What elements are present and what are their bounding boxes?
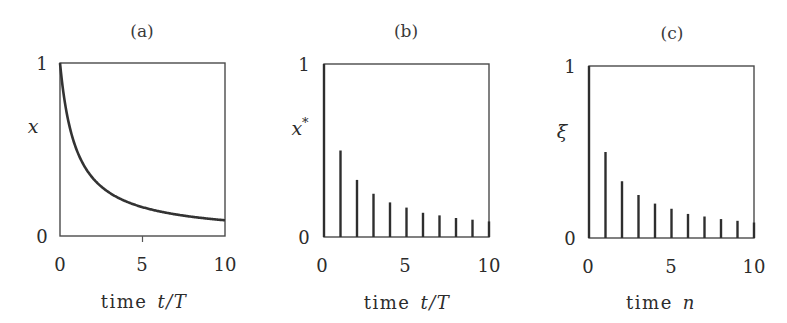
panel-a-ytick-1: 1	[36, 53, 47, 74]
panel-b-xtick-label-0: 0	[316, 255, 327, 276]
panel-a-xtick-label-0: 0	[54, 254, 65, 275]
panel-a-decay-curve	[60, 63, 225, 220]
panel-b-ytick-0: 0	[298, 227, 309, 248]
panel-c-title: (c)	[661, 23, 684, 43]
panel-c: (c) 1 0 ξ 0 5 10 timen	[557, 23, 766, 313]
panel-a-title: (a)	[130, 21, 153, 41]
panel-c-stems	[589, 66, 754, 238]
panel-a-xtick-label-10: 10	[214, 254, 237, 275]
panel-b-xtick-label-10: 10	[478, 255, 501, 276]
panel-a-xtick-label-5: 5	[136, 254, 147, 275]
panel-c-ytick-0: 0	[564, 228, 575, 249]
panel-b-ytick-1: 1	[298, 54, 309, 75]
panel-c-ytick-1: 1	[564, 56, 575, 77]
panel-b-xlabel: timet/T	[364, 292, 451, 313]
panel-c-xlabel: timen	[626, 292, 696, 313]
panel-a: (a) 1 0 x 0 5 10 timet/T	[28, 21, 237, 312]
panel-a-ylabel: x	[28, 115, 39, 137]
panel-c-xtick-label-10: 10	[743, 256, 766, 277]
panel-c-xtick-label-0: 0	[582, 256, 593, 277]
panel-b-stems	[324, 64, 489, 237]
panel-b-ylabel: x*	[291, 115, 309, 139]
panel-a-axes	[60, 63, 225, 236]
panel-c-ylabel: ξ	[557, 120, 569, 142]
panel-c-xtick-label-5: 5	[665, 256, 676, 277]
panel-a-ytick-0: 0	[36, 226, 47, 247]
panel-b: (b) 1 0 x* 0 5 10 timet/T	[291, 21, 500, 313]
panel-a-xlabel: timet/T	[101, 291, 188, 312]
panel-b-xtick-label-5: 5	[399, 255, 410, 276]
figure: (a) 1 0 x 0 5 10 timet/T (b) 1 0 x* 0 5 …	[0, 0, 787, 323]
panel-b-title: (b)	[394, 21, 418, 41]
